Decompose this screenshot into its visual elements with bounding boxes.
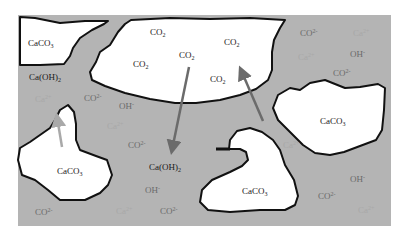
hydroxide-ion-label: OH-	[145, 185, 160, 195]
caco3-label-right: CaCO3	[320, 116, 346, 127]
hydroxide-ion-label: OH-	[350, 174, 365, 184]
caco3-label-bottom-left: CaCO3	[57, 166, 83, 177]
hydroxide-ion-label: OH-	[119, 101, 134, 111]
caoh2-label-left: Ca(OH)2	[29, 72, 61, 83]
carbonation-diagram: CaCO3 CaCO3 CaCO3 CaCO3 CO2 CO2 CO2 CO2 …	[0, 0, 406, 240]
caco3-label-bottom-center: CaCO3	[242, 186, 268, 197]
caco3-label-top-left: CaCO3	[28, 38, 54, 49]
hydroxide-ion-label: OH-	[350, 49, 365, 59]
caoh2-label-center: Ca(OH)2	[149, 162, 181, 173]
